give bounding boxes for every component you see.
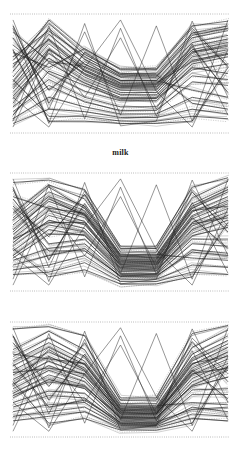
parallel-coordinates-figure: milk (0, 0, 241, 459)
panel-1-plot (0, 0, 241, 150)
chart-panel-1 (0, 0, 241, 150)
chart-panel-3 (0, 312, 241, 444)
panel-2-plot (0, 163, 241, 298)
milk-axis-label: milk (0, 147, 241, 158)
series-line (13, 43, 228, 87)
panel-3-plot (0, 312, 241, 444)
chart-panel-2 (0, 163, 241, 298)
